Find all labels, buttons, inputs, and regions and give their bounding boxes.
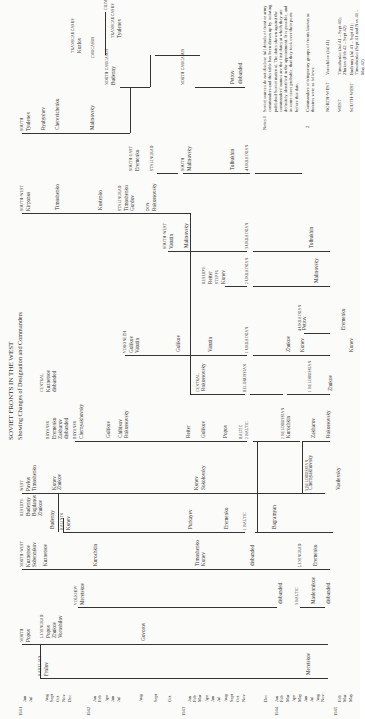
- front-commander: Kozlov: [77, 38, 82, 53]
- front-commander: Vatutin: [135, 338, 140, 353]
- commander-name: disbanded: [238, 63, 243, 84]
- front-name: LENINGRAD: [299, 543, 303, 567]
- front-line: [253, 286, 330, 287]
- front-line: [78, 607, 277, 608]
- front-line: [253, 251, 330, 252]
- commander-name: Malinovsky: [184, 223, 189, 248]
- front-connector: [190, 213, 191, 394]
- month-label: Sept: [154, 694, 159, 702]
- commander-name: Purkayev: [188, 509, 193, 529]
- front-commander: Konev: [66, 516, 71, 530]
- month-label: Jul: [117, 697, 122, 702]
- front-commander: Sobennikov: [32, 542, 37, 567]
- front-name: 4 UKRAINIAN: [246, 145, 250, 171]
- commander-name: Rokossovsky: [326, 410, 331, 438]
- commander-name: Timoshenko: [55, 184, 60, 210]
- front-commander: disbanded: [64, 418, 69, 439]
- front-line: [225, 286, 247, 287]
- commander-name: Eremenko: [313, 545, 318, 566]
- front-name: CAUCASUS: [92, 36, 96, 58]
- front-commander: Budenny: [111, 66, 116, 85]
- commander-name: Konev: [300, 338, 305, 352]
- front-line: [22, 493, 325, 494]
- month-label: Feb: [98, 695, 103, 702]
- front-line: [157, 173, 178, 174]
- front-line: [22, 213, 190, 214]
- commander-name: Malinovsky: [90, 105, 95, 130]
- month-label: Dec: [264, 695, 269, 702]
- commander-name: Zhukov: [328, 375, 333, 391]
- notes-label: Notes 1: [262, 116, 267, 130]
- front-line: [253, 355, 330, 356]
- front-name: 3 UKRAINIAN: [246, 223, 250, 249]
- commander-name: Zhukov: [57, 474, 62, 490]
- theatre-name: SOUTH-WEST: [349, 83, 354, 112]
- commander-name: Tolbukhin: [309, 227, 314, 248]
- front-commander: Meretskov: [80, 583, 85, 605]
- front-commander: Voroshilov: [58, 615, 63, 638]
- front-commander: Gordov: [130, 195, 135, 211]
- front-name: 1 UKRAINIAN: [246, 327, 250, 353]
- commander-name: Vatutin: [208, 337, 213, 352]
- front-name: BELORUSSIAN: [244, 364, 248, 392]
- month-label: Jul: [217, 697, 222, 702]
- page-subtitle: Showing Changes of Designation and Comma…: [17, 312, 24, 440]
- notes-item2: Commanders of temporary groups of fronts…: [305, 2, 316, 112]
- commander-name: Popov: [223, 425, 228, 438]
- front-line: [195, 87, 245, 88]
- theatre-name: WEST: [337, 99, 342, 112]
- commander-name: Petrov: [302, 316, 307, 330]
- commander-name: Rokossovsky: [124, 410, 129, 438]
- front-line: [63, 532, 245, 533]
- front-commander: disbanded: [52, 371, 57, 392]
- month-label: Nov: [321, 694, 326, 702]
- month-label: Nov: [242, 694, 247, 702]
- front-commander: Tyulenev: [117, 19, 122, 38]
- front-commander: Zhukov: [38, 500, 43, 516]
- front-name: 1 BALTIC: [244, 512, 248, 530]
- commander-name: Reiter: [186, 425, 191, 438]
- front-line: [40, 678, 328, 679]
- front-line: [125, 355, 247, 356]
- front-connector: [257, 441, 258, 532]
- year-label: 1942: [87, 707, 92, 716]
- front-line: [22, 569, 330, 570]
- front-connector: [58, 493, 59, 532]
- year-label: 1944: [275, 707, 280, 716]
- notes-item2-label: 2: [305, 126, 310, 128]
- commander-name: disbanded: [250, 545, 255, 566]
- front-line: [22, 133, 130, 134]
- front-line: [300, 607, 325, 608]
- front-commander: Chernyakhovsky: [79, 404, 84, 439]
- front-name: CRIMEA: [105, 0, 109, 10]
- commander-name: Zhukov: [286, 336, 291, 352]
- front-name: 3 BALTIC: [296, 587, 300, 605]
- front-line: [255, 532, 333, 533]
- commander-name: Meretskov: [306, 653, 311, 675]
- commander-name: Rokossovsky: [201, 363, 206, 391]
- notes-paragraph: Soviet sources do not disclose full deta…: [262, 2, 299, 112]
- commander-name: Kurochkin: [93, 544, 98, 566]
- front-name: STALINGRAD: [151, 145, 155, 171]
- front-commander: Popov: [26, 629, 31, 642]
- front-line: [253, 441, 300, 442]
- front-commander: Eremenko: [135, 150, 140, 171]
- front-line: [250, 394, 283, 395]
- front-line: [303, 441, 330, 442]
- month-label: Oct: [168, 695, 173, 702]
- front-name: 2 BALTIC: [246, 421, 250, 439]
- front-line: [22, 644, 328, 645]
- month-label: Dec: [68, 695, 73, 702]
- theatre-detail: Budenny (Jul 41 – Sept 41); Timoshenko (…: [349, 5, 365, 75]
- commander-name: disbanded: [326, 583, 331, 604]
- front-line: [155, 55, 200, 56]
- commander-name: Eremenko: [341, 309, 346, 330]
- month-label: Aug: [139, 694, 144, 702]
- commander-name: Konev: [194, 476, 199, 490]
- commander-name: Tolbukhin: [230, 149, 235, 170]
- commander-name: Golikov: [201, 421, 206, 438]
- front-commander: Konev: [221, 270, 226, 284]
- commander-name: disbanded: [278, 583, 283, 604]
- front-line: [190, 394, 245, 395]
- commander-name: Eremenko: [224, 508, 229, 529]
